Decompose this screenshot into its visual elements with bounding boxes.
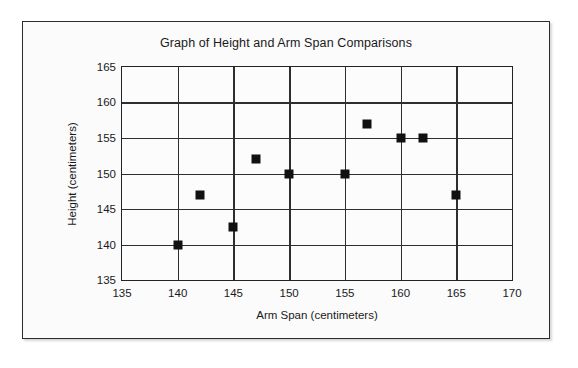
x-axis-tick-label: 165 [447, 287, 466, 299]
data-point [285, 169, 294, 178]
y-axis-tick-label: 160 [97, 96, 116, 108]
plot-area: 135140145150155160165170 135140145150155… [121, 66, 513, 281]
gridline-horizontal [122, 138, 512, 140]
x-axis-tick-label: 135 [112, 287, 131, 299]
y-axis-tick-label: 150 [97, 168, 116, 180]
x-axis-tick-label: 140 [168, 287, 187, 299]
data-point [396, 133, 405, 142]
x-axis-tick-label: 160 [391, 287, 410, 299]
data-point [452, 190, 461, 199]
x-axis-tick-label: 150 [280, 287, 299, 299]
y-axis-tick-label: 155 [97, 132, 116, 144]
x-axis-tick-label: 155 [335, 287, 354, 299]
y-axis-tick-label: 135 [97, 274, 116, 286]
gridline-horizontal [122, 209, 512, 211]
data-point [173, 240, 182, 249]
gridline-horizontal [122, 174, 512, 176]
y-axis-title-text: Height (centimeters) [66, 122, 78, 226]
y-axis-title: Height (centimeters) [64, 66, 80, 281]
data-point [340, 169, 349, 178]
data-point [229, 222, 238, 231]
data-point [196, 190, 205, 199]
y-axis-tick-label: 145 [97, 203, 116, 215]
data-point [251, 155, 260, 164]
x-axis-tick-label: 170 [502, 287, 521, 299]
chart-title: Graph of Height and Arm Span Comparisons [23, 36, 549, 50]
y-axis-tick-label: 140 [97, 239, 116, 251]
figure-frame: Graph of Height and Arm Span Comparisons… [22, 21, 550, 339]
data-point [363, 119, 372, 128]
y-axis-tick-label: 165 [97, 61, 116, 73]
x-axis-tick-label: 145 [224, 287, 243, 299]
data-point [418, 133, 427, 142]
gridline-horizontal [122, 102, 512, 104]
x-axis-title: Arm Span (centimeters) [121, 309, 513, 321]
